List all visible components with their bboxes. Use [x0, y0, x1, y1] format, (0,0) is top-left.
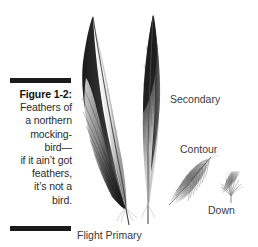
caption-line-5: bird— — [0, 141, 72, 154]
caption-line-3: a northern — [0, 114, 72, 127]
caption-line-7: feathers, — [0, 167, 72, 180]
caption-line-4: mocking- — [0, 128, 72, 141]
caption-line-6: if it ain’t got — [0, 154, 72, 167]
label-secondary: Secondary — [170, 93, 220, 105]
contour-feather-art — [169, 150, 220, 205]
figure-caption: Figure 1-2: Feathers of a northern mocki… — [0, 88, 72, 207]
secondary-feather-art — [142, 15, 160, 224]
caption-line-9: bird. — [0, 194, 72, 207]
caption-rule-bottom — [10, 226, 71, 231]
caption-line-8: it’s not a — [0, 180, 72, 193]
caption-rule-top — [10, 78, 71, 83]
caption-line-2: Feathers of — [0, 101, 72, 114]
caption-line-figure-number: Figure 1-2: — [0, 88, 72, 101]
flight-primary-feather-art — [82, 16, 137, 225]
down-feather-art — [219, 171, 243, 203]
figure-container: Figure 1-2: Feathers of a northern mocki… — [0, 0, 258, 247]
label-down: Down — [208, 204, 235, 216]
label-flight-primary: Flight Primary — [77, 229, 142, 241]
label-contour: Contour — [180, 143, 217, 155]
